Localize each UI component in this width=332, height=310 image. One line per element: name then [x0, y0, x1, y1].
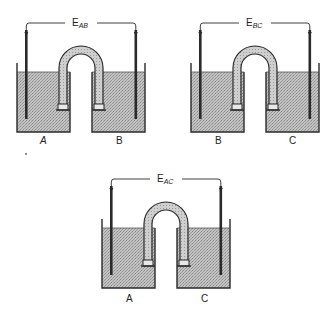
cell-ab: EAB A B — [17, 17, 145, 146]
cell-ac: EAC A C — [102, 173, 230, 304]
cell-bc-apparatus — [191, 23, 319, 132]
beaker-label-c: C — [289, 135, 296, 146]
beaker-label-b: B — [215, 135, 222, 146]
cell-bc: EBC B C — [191, 17, 319, 146]
beaker-label-c: C — [201, 293, 208, 304]
electrochemical-cells-diagram: EAB A B EBC B C EAC A C — [0, 0, 332, 310]
stray-mark — [25, 153, 27, 155]
beaker-label-a: A — [126, 293, 133, 304]
beaker-label-a: A — [39, 135, 47, 146]
emf-label-bc: EBC — [246, 17, 263, 29]
cell-ac-apparatus — [102, 179, 230, 288]
emf-label-ab: EAB — [72, 17, 88, 29]
beaker-label-b: B — [116, 135, 123, 146]
emf-label-ac: EAC — [157, 173, 174, 185]
cell-ab-apparatus — [17, 23, 145, 132]
